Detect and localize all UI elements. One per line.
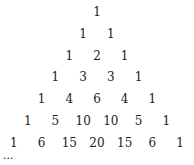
triangle-entry: 2: [93, 49, 101, 63]
triangle-entry: 1: [52, 70, 60, 84]
triangle-entry: 3: [79, 70, 87, 84]
triangle-entry: 1: [24, 114, 32, 128]
triangle-entry: 6: [93, 92, 101, 106]
triangle-entry: 15: [117, 136, 132, 150]
triangle-entry: 1: [149, 92, 157, 106]
triangle-entry: 4: [121, 92, 129, 106]
triangle-entry: 6: [149, 136, 157, 150]
triangle-entry: 1: [121, 49, 129, 63]
triangle-entry: 1: [162, 114, 170, 128]
triangle-entry: 20: [89, 136, 104, 150]
triangle-entry: 10: [76, 114, 91, 128]
triangle-entry: 1: [107, 27, 115, 41]
triangle-entry: 15: [62, 136, 77, 150]
triangle-entry: 1: [38, 92, 46, 106]
triangle-entry: 5: [52, 114, 60, 128]
triangle-entry: 6: [38, 136, 46, 150]
triangle-entry: 1: [93, 5, 101, 19]
triangle-entry: 3: [107, 70, 115, 84]
triangle-entry: 1: [176, 136, 184, 150]
triangle-entry: 1: [79, 27, 87, 41]
triangle-entry: 1: [135, 70, 143, 84]
triangle-entry: 5: [135, 114, 143, 128]
triangle-entry: 10: [103, 114, 118, 128]
triangle-entry: 1: [10, 136, 18, 150]
triangle-entry: 1: [65, 49, 73, 63]
triangle-entry: 4: [65, 92, 73, 106]
continuation-ellipsis: ...: [3, 150, 14, 162]
